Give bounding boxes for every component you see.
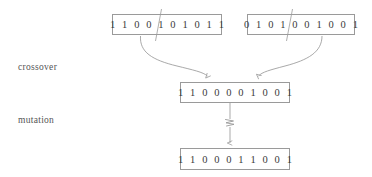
- stage-label-mutation: mutation: [18, 115, 54, 125]
- chromosome-bits-mutated: 1 1 0 0 0 1 1 0 0 1: [176, 154, 294, 165]
- chromosome-box-offspring: 1 1 0 0 0 0 1 0 0 1: [180, 82, 290, 103]
- chromosome-bits-offspring: 1 1 0 0 0 0 1 0 0 1: [176, 87, 294, 98]
- chromosome-bits-parent-1: 1 1 0 0 1 0 1 0 1 1: [108, 19, 226, 30]
- chromosome-box-parent-2: 0 1 0 1 0 0 1 0 0 1: [247, 14, 355, 35]
- crossover-right-arrow: [259, 36, 323, 76]
- chromosome-bits-parent-2: 0 1 0 1 0 0 1 0 0 1: [242, 19, 360, 30]
- crossover-left-arrow: [140, 36, 207, 76]
- ga-crossover-mutation-diagram: crossover mutation 1 1 0 0 1 0 1 0 1 1 0…: [0, 0, 372, 177]
- chromosome-box-parent-1: 1 1 0 0 1 0 1 0 1 1: [112, 14, 222, 35]
- chromosome-box-mutated: 1 1 0 0 0 1 1 0 0 1: [180, 148, 290, 170]
- stage-label-crossover: crossover: [18, 62, 57, 72]
- zigzag-icon: [226, 120, 235, 127]
